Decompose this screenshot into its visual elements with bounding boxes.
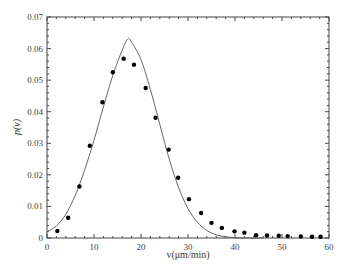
y-tick-label: 0 <box>39 233 44 243</box>
data-point <box>121 56 125 60</box>
x-tick-label: 50 <box>278 242 288 252</box>
data-point <box>100 100 104 104</box>
data-points <box>55 56 323 238</box>
y-tick-label: 0.04 <box>27 107 43 117</box>
y-tick-label: 0.03 <box>27 138 43 148</box>
data-point <box>111 70 115 74</box>
data-point <box>299 234 303 238</box>
data-point <box>220 226 224 230</box>
data-point <box>77 184 81 188</box>
y-tick-label: 0.06 <box>27 44 43 54</box>
x-tick-label: 40 <box>231 242 241 252</box>
data-point <box>88 144 92 148</box>
data-point <box>153 116 157 120</box>
axis-ticks: 010203040506000.010.020.030.040.050.060.… <box>27 12 334 252</box>
data-point <box>277 234 281 238</box>
data-point <box>232 229 236 233</box>
y-tick-label: 0.01 <box>27 201 43 211</box>
y-axis-label: p(v) <box>11 118 23 136</box>
y-tick-label: 0.07 <box>27 12 43 22</box>
data-point <box>187 197 191 201</box>
data-point <box>254 233 258 237</box>
x-axis-label: v(μm/min) <box>166 249 209 261</box>
fit-curve <box>47 39 263 238</box>
data-point <box>132 62 136 66</box>
x-tick-label: 10 <box>90 242 100 252</box>
data-point <box>176 175 180 179</box>
x-tick-label: 60 <box>325 242 335 252</box>
data-point <box>209 221 213 225</box>
data-point <box>55 229 59 233</box>
data-point <box>242 230 246 234</box>
y-tick-label: 0.02 <box>27 170 43 180</box>
data-point <box>199 211 203 215</box>
x-tick-label: 20 <box>137 242 147 252</box>
chart: 010203040506000.010.020.030.040.050.060.… <box>0 0 347 274</box>
x-tick-label: 0 <box>45 242 50 252</box>
data-point <box>167 147 171 151</box>
data-point <box>310 235 314 239</box>
data-point <box>265 233 269 237</box>
y-tick-label: 0.05 <box>27 75 43 85</box>
plot-frame <box>47 17 329 238</box>
data-point <box>285 234 289 238</box>
data-point <box>318 235 322 239</box>
data-point <box>66 216 70 220</box>
data-point <box>144 86 148 90</box>
